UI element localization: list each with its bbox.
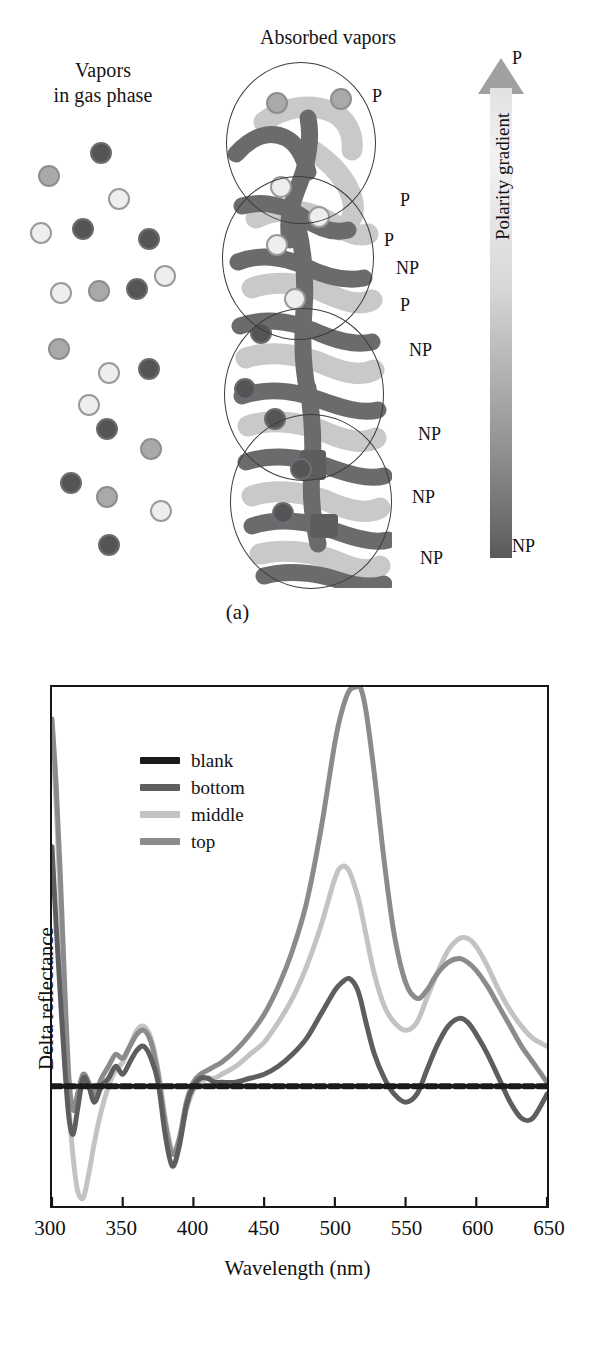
panel-a-caption: (a)	[0, 600, 535, 625]
gas-particle	[30, 222, 52, 244]
polarity-label-np: NP	[412, 487, 435, 508]
x-tick-label: 550	[391, 1216, 423, 1241]
panel-b-chart: blankbottommiddletop Delta reflectance 3…	[0, 660, 595, 1345]
gas-particle	[150, 500, 172, 522]
panel-a-schematic: Vapors in gas phase Absorbed vapors	[0, 0, 595, 660]
gradient-top-label: P	[512, 48, 522, 69]
legend-item: top	[140, 828, 245, 855]
legend-item: middle	[140, 801, 245, 828]
legend-swatch-icon	[140, 838, 180, 845]
polarity-label-np: NP	[418, 424, 441, 445]
legend-swatch-icon	[140, 811, 180, 818]
legend-swatch-icon	[140, 757, 180, 764]
gas-particle	[126, 278, 148, 300]
polarity-label-np: NP	[396, 258, 419, 279]
legend-label: middle	[191, 805, 244, 824]
x-tick-label: 300	[34, 1216, 66, 1241]
gas-particle	[138, 358, 160, 380]
gas-particle	[38, 165, 60, 187]
spectra-plot	[52, 687, 547, 1206]
gas-particle	[108, 188, 130, 210]
polarity-label-p: P	[400, 295, 410, 316]
gas-particle	[78, 394, 100, 416]
x-tick-label: 400	[177, 1216, 209, 1241]
gas-particle	[98, 534, 120, 556]
gas-particle	[90, 142, 112, 164]
gas-particle	[96, 418, 118, 440]
label-vapors-line1: Vapors	[28, 58, 178, 83]
figure-root: Vapors in gas phase Absorbed vapors	[0, 0, 595, 1345]
gradient-bottom-label: NP	[512, 536, 535, 557]
nano-region-circle	[230, 414, 392, 589]
y-axis-title: Delta reflectance	[34, 927, 59, 1070]
legend-label: top	[191, 832, 215, 851]
plot-frame: blankbottommiddletop	[50, 685, 549, 1208]
legend-swatch-icon	[140, 784, 180, 791]
x-axis-title: Wavelength (nm)	[0, 1256, 595, 1281]
gas-particle	[96, 486, 118, 508]
x-tick-label: 350	[106, 1216, 138, 1241]
x-tick-label: 600	[462, 1216, 494, 1241]
label-absorbed-vapors: Absorbed vapors	[218, 26, 438, 49]
legend-item: blank	[140, 747, 245, 774]
series-line-bottom	[52, 847, 547, 1167]
label-vapors-line2: in gas phase	[28, 83, 178, 108]
legend-label: blank	[191, 751, 233, 770]
nanostructure-column	[212, 58, 392, 588]
gas-phase-particle-cloud	[30, 110, 205, 550]
polarity-label-np: NP	[409, 340, 432, 361]
legend-label: bottom	[191, 778, 245, 797]
gas-particle	[88, 280, 110, 302]
gas-particle	[48, 338, 70, 360]
x-tick-label: 450	[248, 1216, 280, 1241]
x-axis-ticks	[52, 1197, 547, 1206]
gas-particle	[60, 472, 82, 494]
gas-particle	[98, 362, 120, 384]
gas-particle	[72, 218, 94, 240]
label-vapors-in-gas-phase: Vapors in gas phase	[28, 58, 178, 108]
gas-particle	[140, 438, 162, 460]
chart-legend: blankbottommiddletop	[140, 747, 245, 855]
gas-particle	[50, 282, 72, 304]
gas-particle	[138, 228, 160, 250]
x-axis-tick-labels: 300350400450500550600650	[50, 1216, 549, 1246]
legend-item: bottom	[140, 774, 245, 801]
x-tick-label: 500	[319, 1216, 351, 1241]
gradient-axis-title: Polarity gradient	[492, 113, 514, 240]
polarity-label-np: NP	[420, 548, 443, 569]
gas-particle	[154, 265, 176, 287]
x-tick-label: 650	[533, 1216, 565, 1241]
polarity-label-p: P	[400, 190, 410, 211]
